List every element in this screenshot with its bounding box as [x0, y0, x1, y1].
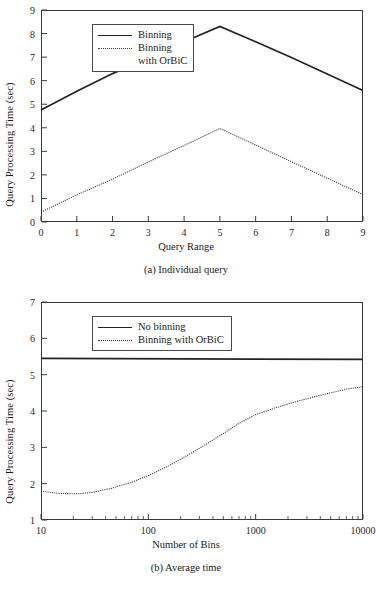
legend-key-solid-icon — [98, 322, 132, 331]
y-tick-label: 7 — [11, 297, 35, 308]
x-axis-title-a: Query Range — [0, 241, 372, 252]
caption-a: (a) Individual query — [0, 264, 372, 275]
y-tick-label: 0 — [11, 217, 35, 228]
y-tick-label: 4 — [11, 122, 35, 133]
x-tick-label: 8 — [325, 227, 330, 238]
y-tick-label: 7 — [11, 52, 35, 63]
legend-a: Binning Binning with OrBiC — [92, 24, 194, 72]
legend-entry-binning: Binning — [98, 28, 187, 41]
y-tick-label: 5 — [11, 99, 35, 110]
x-tick-label: 5 — [217, 227, 222, 238]
legend-key-dotted-icon — [98, 335, 132, 344]
series-line-binning — [41, 26, 363, 110]
series-line-binning-orbic — [41, 128, 363, 212]
legend-label-binning-orbic: Binning — [138, 41, 172, 54]
y-tick-label: 3 — [11, 442, 35, 453]
x-tick-label: 3 — [146, 227, 151, 238]
y-tick-label: 1 — [11, 515, 35, 526]
series-line-no-binning — [41, 358, 363, 359]
legend-key-dotted-icon — [98, 43, 132, 52]
x-tick-label: 100 — [141, 525, 156, 536]
caption-b: (b) Average time — [0, 562, 372, 573]
legend-label-no-binning: No binning — [138, 320, 186, 333]
plot-frame-a — [42, 11, 363, 222]
y-tick-label: 3 — [11, 146, 35, 157]
plot-svg-a — [41, 10, 363, 222]
y-tick-label: 9 — [11, 5, 35, 16]
legend-entry-binning-orbic: Binning with OrBiC — [98, 333, 224, 346]
x-tick-label: 4 — [182, 227, 187, 238]
legend-entry-no-binning: No binning — [98, 320, 224, 333]
series-line-binning-orbic-b — [41, 387, 363, 494]
y-tick-label: 4 — [11, 406, 35, 417]
legend-label-binning-orbic: Binning with OrBiC — [138, 333, 224, 346]
x-tick-label: 6 — [253, 227, 258, 238]
legend-label-binning: Binning — [138, 28, 172, 41]
y-tick-label: 1 — [11, 193, 35, 204]
x-tick-label: 2 — [110, 227, 115, 238]
y-tick-label: 5 — [11, 369, 35, 380]
y-tick-label: 2 — [11, 169, 35, 180]
x-tick-label: 1 — [74, 227, 79, 238]
y-tick-label: 6 — [11, 75, 35, 86]
x-tick-label: 10000 — [351, 525, 376, 536]
y-tick-label: 2 — [11, 478, 35, 489]
y-tick-label: 8 — [11, 28, 35, 39]
x-tick-label: 1000 — [246, 525, 266, 536]
chart-panel-a: Query Processing Time (sec) Binning Binn… — [0, 0, 372, 288]
legend-key-solid-icon — [98, 30, 132, 39]
x-tick-label: 7 — [289, 227, 294, 238]
y-tick-label: 6 — [11, 333, 35, 344]
x-tick-label: 9 — [361, 227, 366, 238]
x-axis-title-b: Number of Bins — [0, 539, 372, 550]
legend-label-binning-orbic-cont: with OrBiC — [98, 54, 187, 67]
legend-b: No binning Binning with OrBiC — [92, 316, 232, 351]
x-tick-label: 0 — [39, 227, 44, 238]
legend-entry-binning-orbic: Binning — [98, 41, 187, 54]
plot-area-b: No binning Binning with OrBiC — [41, 302, 363, 520]
x-tick-label: 10 — [36, 525, 46, 536]
chart-panel-b: Query Processing Time (sec) No binning B… — [0, 292, 372, 591]
plot-area-a: Binning Binning with OrBiC — [41, 10, 363, 222]
axis-ticks-a — [41, 10, 363, 222]
